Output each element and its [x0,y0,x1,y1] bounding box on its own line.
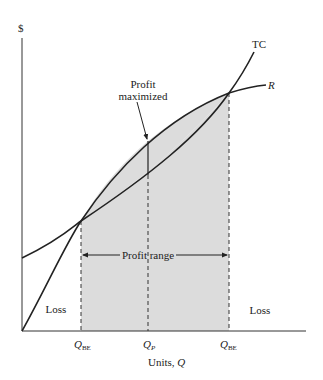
loss-right-label: Loss [250,304,271,316]
tc-label: TC [252,38,266,50]
tick-q-be-right: QBE [220,338,237,352]
break-even-diagram: $ TC R Profit maximized Profit range Los… [0,0,323,380]
tick-q-be-left: QBE [74,338,91,352]
tick-q-p: QP [143,338,156,352]
x-axis-label: Units, Q [148,356,185,368]
profit-maximized-line2: maximized [119,90,168,102]
loss-left-label: Loss [46,303,67,315]
profit-max-pointer [137,102,147,139]
profit-range-label: Profit range [122,249,174,261]
profit-maximized-line1: Profit [130,78,155,90]
profit-region [81,93,229,331]
r-label: R [267,79,275,91]
y-axis-label: $ [18,22,24,34]
